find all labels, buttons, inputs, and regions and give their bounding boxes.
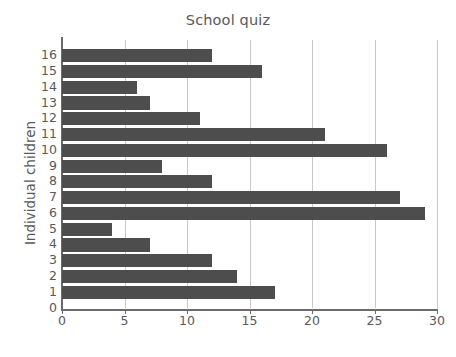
bar-fill bbox=[62, 270, 237, 283]
y-tick-13: 13 bbox=[5, 97, 57, 110]
x-tickmark-25 bbox=[375, 309, 376, 314]
y-tick-15: 15 bbox=[5, 65, 57, 78]
y-tick-8: 8 bbox=[5, 175, 57, 188]
y-tick-9: 9 bbox=[5, 160, 57, 173]
x-tick-30: 30 bbox=[429, 313, 445, 328]
x-tick-labels: 051015202530 bbox=[62, 313, 438, 333]
plot-area bbox=[62, 40, 437, 308]
x-tick-15: 15 bbox=[242, 313, 258, 328]
bar-15 bbox=[62, 65, 262, 78]
bar-fill bbox=[62, 112, 200, 125]
bar-4 bbox=[62, 238, 150, 251]
bar-7 bbox=[62, 191, 400, 204]
bar-fill bbox=[62, 144, 387, 157]
y-tick-14: 14 bbox=[5, 81, 57, 94]
x-tickmark-20 bbox=[312, 309, 313, 314]
bar-fill bbox=[62, 207, 425, 220]
y-tick-1: 1 bbox=[5, 286, 57, 299]
bar-9 bbox=[62, 160, 162, 173]
x-tick-20: 20 bbox=[304, 313, 320, 328]
bar-10 bbox=[62, 144, 387, 157]
bar-16 bbox=[62, 49, 212, 62]
x-tickmark-10 bbox=[187, 309, 188, 314]
clipped-header-text bbox=[0, 0, 456, 4]
y-tick-16: 16 bbox=[5, 49, 57, 62]
y-tick-7: 7 bbox=[5, 191, 57, 204]
y-tick-3: 3 bbox=[5, 254, 57, 267]
x-tickmark-15 bbox=[250, 309, 251, 314]
y-tick-5: 5 bbox=[5, 223, 57, 236]
bar-fill bbox=[62, 65, 262, 78]
bar-fill bbox=[62, 81, 137, 94]
chart-title: School quiz bbox=[0, 12, 456, 28]
bar-8 bbox=[62, 175, 212, 188]
y-tick-10: 10 bbox=[5, 144, 57, 157]
bar-fill bbox=[62, 49, 212, 62]
gridline-15 bbox=[250, 40, 251, 308]
bar-5 bbox=[62, 223, 112, 236]
y-tick-4: 4 bbox=[5, 238, 57, 251]
bar-fill bbox=[62, 160, 162, 173]
y-tick-2: 2 bbox=[5, 270, 57, 283]
y-tick-6: 6 bbox=[5, 207, 57, 220]
x-tick-0: 0 bbox=[58, 313, 66, 328]
bar-13 bbox=[62, 96, 150, 109]
x-tickmark-5 bbox=[125, 309, 126, 314]
gridline-30 bbox=[437, 40, 438, 308]
bar-1 bbox=[62, 286, 275, 299]
bar-3 bbox=[62, 254, 212, 267]
gridline-25 bbox=[375, 40, 376, 308]
x-tickmark-0 bbox=[62, 309, 63, 314]
bar-fill bbox=[62, 254, 212, 267]
bar-fill bbox=[62, 223, 112, 236]
y-tick-12: 12 bbox=[5, 112, 57, 125]
x-tickmark-30 bbox=[437, 309, 438, 314]
gridline-20 bbox=[312, 40, 313, 308]
bar-6 bbox=[62, 207, 425, 220]
bar-14 bbox=[62, 81, 137, 94]
bar-12 bbox=[62, 112, 200, 125]
y-tick-labels: 012345678910111213141516 bbox=[0, 0, 57, 357]
bar-11 bbox=[62, 128, 325, 141]
y-tick-0: 0 bbox=[5, 302, 57, 315]
bar-fill bbox=[62, 286, 275, 299]
bar-fill bbox=[62, 96, 150, 109]
y-tick-11: 11 bbox=[5, 128, 57, 141]
x-tick-5: 5 bbox=[121, 313, 129, 328]
bar-fill bbox=[62, 191, 400, 204]
bar-fill bbox=[62, 175, 212, 188]
bar-fill bbox=[62, 238, 150, 251]
x-tick-25: 25 bbox=[367, 313, 383, 328]
bar-chart: School quiz Individual children 01234567… bbox=[0, 0, 456, 357]
bar-fill bbox=[62, 128, 325, 141]
bar-2 bbox=[62, 270, 237, 283]
gridline-10 bbox=[187, 40, 188, 308]
x-tick-10: 10 bbox=[179, 313, 195, 328]
